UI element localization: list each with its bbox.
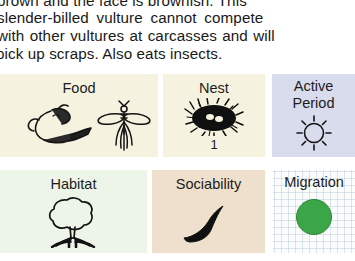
card-sociability: Sociability [152,170,265,253]
description-line-2: slender-billed vulture cannot compete [0,9,263,27]
insect-icon [95,100,153,157]
card-food-label: Food [0,80,158,96]
card-migration: Migration [273,170,355,253]
card-food: Food [0,74,158,157]
green-circle-shape [296,199,332,235]
nest-icon [184,98,244,140]
card-active-period-label-line1: Active [272,78,355,94]
card-habitat: Habitat [0,170,147,253]
description-line-4: pick up scraps. Also eats insects. [0,45,222,63]
card-habitat-label: Habitat [0,176,147,192]
card-active-period: Active Period [272,74,355,157]
card-active-period-label-line2: Period [272,95,355,111]
card-nest-count: 1 [163,138,265,152]
description-line-3: with other vultures at carcasses and wil… [0,27,275,45]
single-bird-in-flight-icon [182,203,236,249]
card-sociability-label: Sociability [152,176,265,192]
card-migration-label: Migration [273,174,355,190]
description-line-1: brown and the face is brownish. This [0,0,247,9]
card-nest-label: Nest [163,80,265,96]
card-nest: Nest 1 [163,74,265,157]
species-description-text: brown and the face is brownish. This sle… [0,0,355,72]
tree-icon [41,196,107,252]
sun-icon [294,113,334,157]
info-card-grid: Food [0,74,355,261]
carcass-icon [22,102,106,154]
